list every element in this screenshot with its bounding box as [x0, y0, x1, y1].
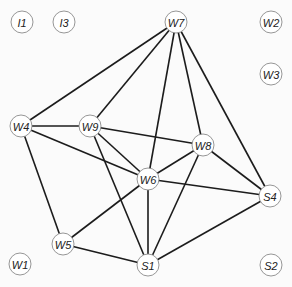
node-i1: I1	[11, 11, 33, 33]
edge-w9-s1	[90, 126, 148, 265]
node-label: W8	[195, 140, 212, 152]
node-label: I1	[17, 17, 26, 29]
node-label: S1	[141, 260, 154, 272]
node-w5: W5	[52, 233, 74, 255]
node-label: W7	[168, 17, 185, 29]
node-label: W5	[55, 239, 72, 251]
node-s4: S4	[259, 185, 281, 207]
node-label: S2	[264, 260, 277, 272]
node-label: W9	[82, 121, 99, 133]
node-label: W2	[263, 17, 280, 29]
node-s2: S2	[260, 254, 282, 276]
node-w2: W2	[260, 11, 282, 33]
edge-w7-w4	[21, 22, 176, 126]
node-i3: I3	[53, 11, 75, 33]
edge-w7-w8	[176, 22, 203, 145]
node-label: W1	[12, 259, 29, 271]
node-w7: W7	[165, 11, 187, 33]
edge-layer	[21, 22, 270, 265]
node-w9: W9	[79, 115, 101, 137]
node-w8: W8	[192, 134, 214, 156]
edge-w7-w9	[90, 22, 176, 126]
node-label: W3	[263, 69, 280, 81]
edge-w4-w5	[21, 126, 63, 244]
edge-w5-s1	[63, 244, 148, 265]
node-label: S4	[263, 191, 276, 203]
node-w3: W3	[260, 63, 282, 85]
edge-w7-s4	[176, 22, 270, 196]
node-s1: S1	[137, 254, 159, 276]
node-label: I3	[59, 17, 69, 29]
edge-w8-s1	[148, 145, 203, 265]
node-w4: W4	[10, 115, 32, 137]
network-graph: I1I3W7W2W3W4W9W8W6S4W5W1S1S2	[0, 0, 292, 287]
edge-s1-s4	[148, 196, 270, 265]
node-label: W4	[13, 121, 30, 133]
edge-w7-w6	[148, 22, 176, 179]
node-label: W6	[140, 174, 157, 186]
node-w6: W6	[137, 168, 159, 190]
node-w1: W1	[9, 253, 31, 275]
